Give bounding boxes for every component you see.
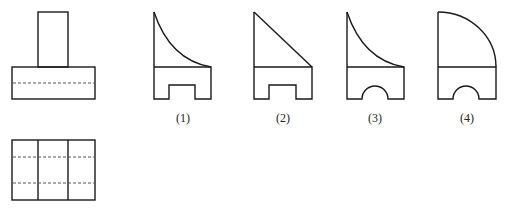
- option-1-side-view[interactable]: [154, 12, 211, 99]
- front-view: [12, 12, 95, 99]
- option-2-side-view[interactable]: [254, 12, 312, 99]
- option-4-outline: [438, 12, 496, 99]
- option-3-label: (3): [368, 111, 382, 126]
- option-2-label: (2): [276, 111, 290, 126]
- top-outline: [12, 140, 95, 200]
- option-4-convex-arc: [438, 12, 496, 67]
- option-3-concave-curve: [347, 12, 404, 67]
- diagram-canvas: [0, 0, 507, 211]
- option-3-side-view[interactable]: [347, 12, 404, 99]
- top-view: [12, 140, 95, 200]
- option-4-label: (4): [460, 111, 474, 126]
- option-2-outline: [254, 12, 312, 99]
- front-upright-block: [38, 12, 68, 67]
- option-1-concave-curve: [154, 12, 211, 67]
- option-4-side-view[interactable]: [438, 12, 496, 99]
- option-1-label: (1): [176, 111, 190, 126]
- option-2-slope-line: [254, 12, 312, 67]
